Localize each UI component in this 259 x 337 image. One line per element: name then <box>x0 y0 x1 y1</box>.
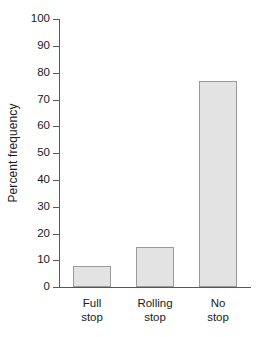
bar-no-stop <box>199 81 237 287</box>
y-tick-40 <box>53 180 59 181</box>
y-tick-0 <box>53 287 59 288</box>
y-tick-label-40-wrap: 40 <box>0 174 50 186</box>
x-category-label-rolling-stop: Rolling stop <box>125 296 185 324</box>
y-axis-line <box>59 19 60 288</box>
y-tick-label-30-wrap: 30 <box>0 201 50 213</box>
y-tick-label-90-wrap: 90 <box>0 40 50 52</box>
x-category-label-rolling-stop-line1: Rolling <box>125 296 185 310</box>
plot-area: Percent frequency 100 90 80 70 60 50 <box>0 0 259 337</box>
y-tick-label-20: 20 <box>6 228 50 239</box>
y-tick-label-30: 30 <box>6 201 50 212</box>
y-tick-label-0-wrap: 0 <box>0 281 50 293</box>
y-tick-label-80-wrap: 80 <box>0 67 50 79</box>
y-tick-label-80: 80 <box>6 67 50 78</box>
y-tick-80 <box>53 73 59 74</box>
y-tick-label-70-wrap: 70 <box>0 94 50 106</box>
x-category-label-rolling-stop-line2: stop <box>125 310 185 324</box>
x-category-label-no-stop: No stop <box>188 296 248 324</box>
x-category-label-no-stop-line2: stop <box>188 310 248 324</box>
y-tick-label-100: 100 <box>6 13 50 24</box>
y-tick-label-90: 90 <box>6 40 50 51</box>
x-category-label-full-stop: Full stop <box>62 296 122 324</box>
y-tick-70 <box>53 100 59 101</box>
x-category-label-full-stop-line1: Full <box>62 296 122 310</box>
x-category-label-no-stop-line1: No <box>188 296 248 310</box>
y-tick-label-60-wrap: 60 <box>0 120 50 132</box>
y-tick-label-60: 60 <box>6 120 50 131</box>
y-tick-label-0: 0 <box>6 281 50 292</box>
bar-rolling-stop <box>136 247 174 287</box>
y-tick-label-100-wrap: 100 <box>0 13 50 25</box>
y-tick-label-10: 10 <box>6 254 50 265</box>
y-tick-90 <box>53 46 59 47</box>
y-tick-label-50: 50 <box>6 147 50 158</box>
bar-full-stop <box>73 266 111 287</box>
y-tick-100 <box>53 19 59 20</box>
y-tick-30 <box>53 207 59 208</box>
y-tick-50 <box>53 153 59 154</box>
x-category-label-full-stop-line2: stop <box>62 310 122 324</box>
y-tick-label-40: 40 <box>6 174 50 185</box>
y-tick-label-50-wrap: 50 <box>0 147 50 159</box>
x-axis-line <box>59 287 251 288</box>
y-tick-60 <box>53 126 59 127</box>
y-tick-label-10-wrap: 10 <box>0 254 50 266</box>
bar-chart: Percent frequency 100 90 80 70 60 50 <box>0 0 259 337</box>
y-tick-label-70: 70 <box>6 94 50 105</box>
y-tick-20 <box>53 234 59 235</box>
y-tick-label-20-wrap: 20 <box>0 228 50 240</box>
y-tick-10 <box>53 260 59 261</box>
